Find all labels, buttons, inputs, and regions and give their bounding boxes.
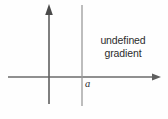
coordinate-axes <box>0 0 168 119</box>
x-axis-arrowhead <box>152 73 161 80</box>
undefined-gradient-diagram: undefined gradient a <box>0 0 168 119</box>
x-intercept-label-a: a <box>85 78 90 89</box>
annotation-line-1: undefined <box>100 34 145 46</box>
undefined-gradient-annotation: undefined gradient <box>90 34 156 59</box>
y-axis-arrowhead <box>45 4 53 15</box>
annotation-line-2: gradient <box>90 47 156 60</box>
